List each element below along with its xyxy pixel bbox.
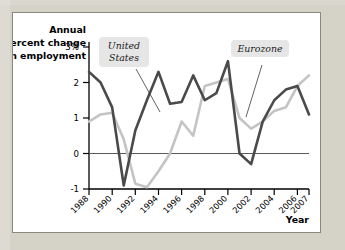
chart-panel: Annual percent change in employment 3% 2… bbox=[12, 12, 321, 233]
united-states-label-line-2: States bbox=[109, 52, 139, 63]
figure-container: Annual percent change in employment 3% 2… bbox=[0, 0, 345, 250]
x-tick-label-1988: 1988 bbox=[68, 193, 90, 215]
y-axis-title-line-1: Annual bbox=[49, 24, 86, 35]
united-states-label-line-1: United bbox=[108, 40, 140, 51]
x-tick-label-2004: 2004 bbox=[253, 193, 275, 215]
x-tick-label-1996: 1996 bbox=[161, 193, 183, 215]
y-tick-label-1: 1 bbox=[74, 113, 79, 123]
eurozone-leader-line bbox=[246, 65, 262, 117]
x-tick-label-1994: 1994 bbox=[138, 193, 160, 215]
eurozone-annotation: Eurozone bbox=[231, 40, 289, 57]
y-tick-label-minus-1: -1 bbox=[70, 184, 79, 194]
x-tick-label-2002: 2002 bbox=[230, 193, 252, 215]
x-tick-label-1998: 1998 bbox=[184, 193, 206, 215]
x-tick-label-1990: 1990 bbox=[91, 193, 113, 215]
y-tick-label-3: 3% bbox=[65, 42, 79, 52]
eurozone-label: Eurozone bbox=[236, 43, 283, 54]
y-tick-label-0: 0 bbox=[74, 149, 79, 159]
y-tick-label-2: 2 bbox=[74, 78, 79, 88]
united-states-annotation: United States bbox=[99, 37, 149, 67]
x-tick-label-2000: 2000 bbox=[207, 193, 229, 215]
x-axis-title: Year bbox=[285, 214, 310, 225]
x-tick-label-1992: 1992 bbox=[115, 193, 137, 215]
employment-line-chart: Annual percent change in employment 3% 2… bbox=[13, 13, 322, 234]
united-states-line bbox=[89, 61, 309, 185]
